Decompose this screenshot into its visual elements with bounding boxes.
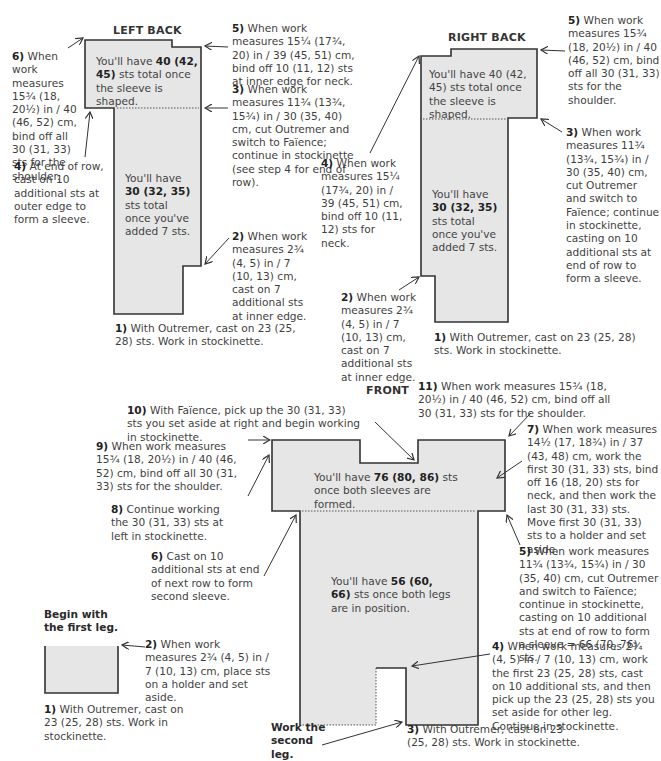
right-back-inner-bottom: You'll have 30 (32, 35) sts total once y… [432,188,502,254]
front-inner-bottom: You'll have 56 (60, 66) sts once both le… [331,575,451,615]
left-back-step-2: 2) When work measures 2¾ (4, 5) in / 7 (… [232,230,312,323]
first-leg-shape [45,646,118,693]
left-back-inner-top: You'll have 40 (42, 45) sts total once t… [96,55,200,108]
left-back-inner-bottom: You'll have 30 (32, 35) sts total once y… [125,172,195,238]
front-title: FRONT [366,384,409,397]
right-back-inner-top: You'll have 40 (42, 45) sts total once t… [429,68,535,121]
front-step-8: 8) Continue working the 30 (31, 33) sts … [111,503,231,543]
left-back-step-1: 1) With Outremer, cast on 23 (25, 28) st… [115,322,315,349]
front-step-6: 6) Cast on 10 additional sts at end of n… [151,550,269,603]
left-back-step-5: 5) When work measures 15¼ (17¾, 20) in /… [232,22,357,88]
right-back-step-3: 3) When work measures 11¾ (13¾, 15¾) in … [566,126,660,286]
left-back-title: LEFT BACK [113,24,182,37]
first-leg-step-2: 2) When work measures 2¾ (4, 5) in / 7 (… [145,638,275,704]
first-leg-step-1: 1) With Outremer, cast on 23 (25, 28) st… [44,703,194,743]
begin-first-leg-label: Begin with the first leg. [44,608,124,635]
right-back-step-1: 1) With Outremer, cast on 23 (25, 28) st… [434,331,654,358]
right-back-title: RIGHT BACK [448,31,526,44]
front-inner-top: You'll have 76 (80, 86) sts once both sl… [314,471,474,511]
front-step-4: 4) When work measures 2¾ (4, 5) in / 7 (… [492,640,657,733]
front-step-9: 9) When work measures 15¾ (18, 20½) in /… [96,440,246,493]
front-step-11: 11) When work measures 15¾ (18, 20½) in … [418,380,623,420]
right-back-step-4: 4) When work measures 15¼ (17¾, 20) in /… [321,157,403,250]
right-back-step-2: 2) When work measures 2¾ (4, 5) in / 7 (… [341,291,423,384]
left-back-step-4: 4) At end of row, cast on 10 additional … [14,160,104,226]
second-leg-label: Work the second leg. [271,721,331,761]
front-step-7: 7) When work measures 14½ (17, 18¾) in /… [527,423,660,556]
front-step-3: 3) With Outremer, cast on 23 (25, 28) st… [407,723,582,750]
front-step-10: 10) With Faïence, pick up the 30 (31, 33… [127,404,362,444]
right-back-step-5: 5) When work measures 15¾ (18, 20½) in /… [568,14,660,107]
